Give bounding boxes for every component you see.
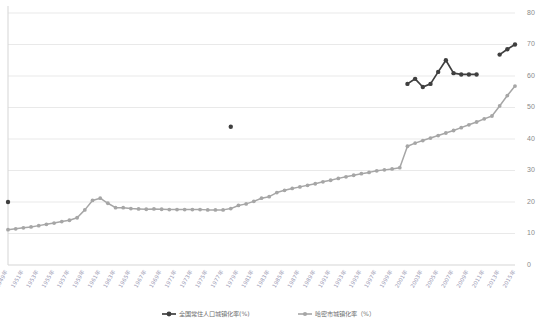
- x-tick-label-1: 1951年: [9, 268, 26, 289]
- x-tick-label-3: 1955年: [40, 268, 57, 289]
- legend-label-0: 全国常住人口城镇化率(%): [179, 310, 250, 318]
- national-point-29: [229, 125, 233, 129]
- national-point-57: [444, 58, 448, 62]
- x-tick-label-2: 1953年: [24, 268, 41, 289]
- hami-point-2: [21, 226, 25, 230]
- hami-point-53: [413, 141, 417, 145]
- hami-point-55: [429, 136, 433, 140]
- national-point-53: [413, 77, 417, 81]
- y-tick-label-10: 10: [527, 229, 535, 236]
- x-tick-label-14: 1977年: [209, 268, 226, 289]
- hami-point-23: [183, 208, 187, 212]
- x-tick-label-5: 1959年: [70, 268, 87, 289]
- hami-point-61: [475, 120, 479, 124]
- hami-point-43: [336, 176, 340, 180]
- x-tick-label-13: 1975年: [193, 268, 210, 289]
- x-tick-label-31: 2011年: [470, 268, 487, 289]
- hami-point-7: [60, 220, 64, 224]
- legend-marker-0: [167, 312, 172, 317]
- hami-point-42: [329, 178, 333, 182]
- y-tick-label-0: 0: [527, 261, 531, 268]
- x-tick-label-17: 1983年: [255, 268, 272, 289]
- x-tick-label-21: 1991年: [316, 268, 333, 289]
- hami-point-25: [198, 208, 202, 212]
- hami-point-32: [252, 199, 256, 203]
- x-tick-label-20: 1989年: [301, 268, 318, 289]
- national-point-55: [428, 82, 432, 86]
- hami-point-20: [160, 207, 164, 211]
- x-tick-label-30: 2009年: [454, 268, 471, 289]
- hami-point-51: [398, 166, 402, 170]
- national-point-60: [467, 72, 471, 76]
- national-point-64: [497, 52, 501, 56]
- x-tick-label-16: 1981年: [239, 268, 256, 289]
- hami-point-8: [68, 218, 72, 222]
- hami-point-44: [344, 175, 348, 179]
- hami-point-15: [121, 206, 125, 210]
- chart-legend: 全国常住人口城镇化率(%)哈密市城镇化率（%）: [162, 310, 375, 318]
- x-tick-label-28: 2005年: [424, 268, 441, 289]
- hami-point-6: [52, 221, 56, 225]
- y-tick-label-80: 80: [527, 9, 535, 16]
- chart-canvas: 01020304050607080 1949年1951年1953年1955年19…: [0, 0, 551, 329]
- hami-point-64: [498, 104, 502, 108]
- hami-point-3: [29, 225, 33, 229]
- hami-point-65: [505, 94, 509, 98]
- hami-point-13: [106, 201, 110, 205]
- hami-point-58: [452, 129, 456, 133]
- x-tick-label-18: 1985年: [270, 268, 287, 289]
- x-tick-label-11: 1971年: [162, 268, 179, 289]
- hami-point-36: [283, 188, 287, 192]
- y-tick-label-30: 30: [527, 166, 535, 173]
- x-axis-tick-labels: 1949年1951年1953年1955年1957年1959年1961年1963年…: [0, 268, 517, 289]
- x-tick-label-4: 1957年: [55, 268, 72, 289]
- hami-point-56: [436, 134, 440, 138]
- hami-point-38: [298, 185, 302, 189]
- hami-point-12: [98, 196, 102, 200]
- x-tick-label-23: 1995年: [347, 268, 364, 289]
- hami-point-66: [513, 84, 517, 88]
- x-tick-label-12: 1973年: [178, 268, 195, 289]
- national-point-66: [513, 42, 517, 46]
- hami-point-62: [482, 117, 486, 121]
- hami-point-19: [152, 207, 156, 211]
- hami-point-50: [390, 167, 394, 171]
- hami-point-9: [75, 216, 79, 220]
- national-point-61: [474, 72, 478, 76]
- hami-point-10: [83, 208, 87, 212]
- hami-point-29: [229, 207, 233, 211]
- x-tick-label-32: 2013年: [485, 268, 502, 289]
- national-point-56: [436, 70, 440, 74]
- y-tick-label-60: 60: [527, 72, 535, 79]
- hami-point-47: [367, 170, 371, 174]
- hami-point-5: [45, 222, 49, 226]
- hami-point-35: [275, 191, 279, 195]
- hami-point-27: [214, 208, 218, 212]
- series-national-line: [407, 45, 515, 88]
- series-national-points: [6, 42, 517, 204]
- hami-point-16: [129, 207, 133, 211]
- hami-point-60: [467, 123, 471, 127]
- x-tick-label-29: 2007年: [439, 268, 456, 289]
- y-axis-tick-labels: 01020304050607080: [527, 9, 535, 268]
- x-tick-label-9: 1967年: [132, 268, 149, 289]
- hami-point-18: [144, 207, 148, 211]
- hami-point-49: [383, 168, 387, 172]
- x-tick-label-22: 1993年: [331, 268, 348, 289]
- x-tick-label-6: 1961年: [86, 268, 103, 289]
- y-tick-label-50: 50: [527, 103, 535, 110]
- x-tick-label-25: 1999年: [378, 268, 395, 289]
- x-tick-label-26: 2001年: [393, 268, 410, 289]
- y-tick-label-40: 40: [527, 135, 535, 142]
- hami-point-17: [137, 207, 141, 211]
- hami-point-26: [206, 208, 210, 212]
- hami-point-0: [6, 228, 10, 232]
- series-hami-points: [6, 84, 517, 231]
- y-tick-label-70: 70: [527, 40, 535, 47]
- x-tick-label-10: 1969年: [147, 268, 164, 289]
- x-tick-label-33: 2015年: [500, 268, 517, 289]
- national-point-0: [6, 200, 10, 204]
- national-point-52: [405, 82, 409, 86]
- hami-point-54: [421, 139, 425, 143]
- hami-point-24: [190, 208, 194, 212]
